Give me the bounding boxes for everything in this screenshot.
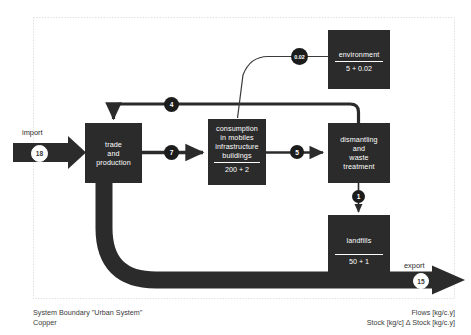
node-dismantling-line-3: waste — [347, 153, 370, 162]
import-label: import — [22, 128, 43, 138]
node-environment[interactable]: environment 5 + 0.02 — [328, 30, 390, 89]
node-consumption[interactable]: consumption in mobiles infrastructure bu… — [208, 119, 266, 185]
node-consumption-stock: 200 + 2 — [225, 165, 249, 174]
units-flows-caption: Flows [kg/c.y] — [411, 308, 455, 319]
node-trade-line-2: and — [105, 149, 121, 158]
node-consumption-line-1: consumption — [214, 124, 260, 133]
node-dismantling-line-1: dismantling — [338, 135, 379, 144]
flow-arrow-import — [13, 136, 86, 169]
node-dismantling[interactable]: dismantling and waste treatment — [328, 123, 390, 183]
material-caption: Copper — [33, 318, 57, 329]
node-consumption-line-4: buildings — [220, 151, 253, 160]
flow-badge-dismantling-to-trade[interactable]: 4 — [164, 97, 179, 112]
flow-badge-trade-to-consumption[interactable]: 7 — [164, 145, 179, 160]
node-dismantling-line-2: and — [351, 144, 367, 153]
flow-badge-import[interactable]: 18 — [31, 145, 48, 162]
flow-badge-environment-to-consumption[interactable]: 0.02 — [291, 48, 308, 65]
node-environment-title: environment — [337, 50, 382, 59]
flow-arrow-export — [104, 183, 465, 295]
node-landfills-title: landfills — [345, 236, 374, 245]
node-trade-line-3: production — [94, 158, 133, 167]
flow-badge-dismantling-to-landfills[interactable]: 1 — [352, 190, 365, 203]
export-label: export — [404, 261, 425, 271]
node-divider — [214, 162, 259, 163]
flow-badge-export[interactable]: 15 — [413, 273, 429, 289]
node-consumption-line-2: in mobiles — [218, 133, 255, 142]
node-landfills[interactable]: landfills 50 + 1 — [328, 215, 390, 275]
node-environment-stock: 5 + 0.02 — [346, 64, 372, 73]
node-divider — [335, 254, 383, 255]
node-dismantling-line-4: treatment — [341, 162, 376, 171]
diagram-canvas: environment 5 + 0.02 trade and productio… — [0, 0, 471, 335]
system-boundary-caption: System Boundary "Urban System" — [33, 308, 142, 319]
node-divider — [335, 61, 383, 62]
units-stock-caption: Stock [kg/c] Δ Stock [kg/c.y] — [367, 318, 455, 329]
flow-badge-consumption-to-dismantling[interactable]: 5 — [290, 145, 304, 159]
node-trade-line-1: trade — [103, 140, 124, 149]
node-landfills-stock: 50 + 1 — [349, 257, 369, 266]
flow-arrow-environment-to-consumption — [238, 57, 329, 119]
node-trade-and-production[interactable]: trade and production — [85, 123, 142, 183]
node-consumption-line-3: infrastructure — [213, 142, 260, 151]
